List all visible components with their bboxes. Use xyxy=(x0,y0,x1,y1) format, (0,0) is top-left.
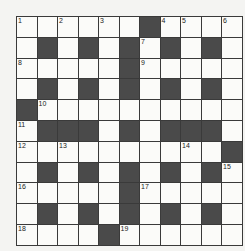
crossword-cell[interactable]: 11 xyxy=(17,121,37,141)
crossword-cell[interactable] xyxy=(17,163,37,183)
crossword-cell[interactable] xyxy=(161,225,181,245)
crossword-cell[interactable] xyxy=(140,225,160,245)
crossword-cell[interactable] xyxy=(58,183,78,203)
crossword-cell[interactable] xyxy=(58,163,78,183)
crossword-cell[interactable] xyxy=(202,225,222,245)
crossword-cell[interactable] xyxy=(181,163,201,183)
crossword-cell[interactable] xyxy=(58,225,78,245)
black-cell xyxy=(202,163,222,183)
crossword-cell[interactable] xyxy=(222,38,242,58)
black-cell xyxy=(140,17,160,37)
crossword-cell[interactable] xyxy=(222,100,242,120)
crossword-cell[interactable] xyxy=(38,59,58,79)
crossword-cell[interactable]: 9 xyxy=(140,59,160,79)
black-cell xyxy=(161,79,181,99)
crossword-cell[interactable]: 7 xyxy=(140,38,160,58)
crossword-cell[interactable] xyxy=(202,59,222,79)
crossword-cell[interactable] xyxy=(99,204,119,224)
crossword-cell[interactable] xyxy=(79,100,99,120)
crossword-cell[interactable]: 12 xyxy=(17,142,37,162)
black-cell xyxy=(202,121,222,141)
crossword-cell[interactable] xyxy=(202,17,222,37)
crossword-cell[interactable] xyxy=(99,59,119,79)
crossword-cell[interactable] xyxy=(79,225,99,245)
crossword-cell[interactable]: 1 xyxy=(17,17,37,37)
crossword-cell[interactable] xyxy=(222,59,242,79)
crossword-cell[interactable] xyxy=(99,79,119,99)
crossword-cell[interactable]: 14 xyxy=(181,142,201,162)
crossword-cell[interactable] xyxy=(79,142,99,162)
crossword-cell[interactable] xyxy=(120,142,140,162)
crossword-cell[interactable]: 2 xyxy=(58,17,78,37)
crossword-cell[interactable] xyxy=(202,100,222,120)
crossword-cell[interactable] xyxy=(58,38,78,58)
crossword-cell[interactable] xyxy=(222,79,242,99)
clue-number: 15 xyxy=(223,163,231,171)
crossword-cell[interactable] xyxy=(181,79,201,99)
crossword-cell[interactable] xyxy=(58,59,78,79)
crossword-cell[interactable] xyxy=(38,183,58,203)
crossword-cell[interactable] xyxy=(202,183,222,203)
crossword-cell[interactable] xyxy=(181,225,201,245)
crossword-cell[interactable] xyxy=(17,79,37,99)
crossword-cell[interactable]: 4 xyxy=(161,17,181,37)
crossword-cell[interactable] xyxy=(99,163,119,183)
crossword-cell[interactable]: 16 xyxy=(17,183,37,203)
crossword-cell[interactable] xyxy=(161,142,181,162)
crossword-cell[interactable] xyxy=(222,225,242,245)
crossword-cell[interactable] xyxy=(17,204,37,224)
crossword-cell[interactable] xyxy=(181,38,201,58)
crossword-cell[interactable] xyxy=(38,225,58,245)
crossword-cell[interactable] xyxy=(99,183,119,203)
crossword-cell[interactable] xyxy=(120,17,140,37)
crossword-cell[interactable] xyxy=(58,100,78,120)
clue-number: 18 xyxy=(18,225,26,233)
crossword-cell[interactable] xyxy=(120,100,140,120)
crossword-cell[interactable] xyxy=(58,79,78,99)
crossword-cell[interactable] xyxy=(222,121,242,141)
crossword-cell[interactable] xyxy=(222,183,242,203)
crossword-cell[interactable] xyxy=(140,204,160,224)
crossword-cell[interactable]: 10 xyxy=(38,100,58,120)
black-cell xyxy=(79,79,99,99)
crossword-cell[interactable] xyxy=(140,163,160,183)
crossword-cell[interactable]: 15 xyxy=(222,163,242,183)
crossword-cell[interactable]: 19 xyxy=(120,225,140,245)
black-cell xyxy=(181,121,201,141)
crossword-cell[interactable] xyxy=(140,79,160,99)
crossword-cell[interactable] xyxy=(79,59,99,79)
black-cell xyxy=(120,183,140,203)
clue-number: 4 xyxy=(162,17,166,25)
crossword-cell[interactable] xyxy=(222,204,242,224)
crossword-cell[interactable] xyxy=(79,183,99,203)
crossword-cell[interactable] xyxy=(161,59,181,79)
crossword-cell[interactable] xyxy=(38,142,58,162)
crossword-cell[interactable] xyxy=(17,38,37,58)
crossword-cell[interactable] xyxy=(79,17,99,37)
crossword-cell[interactable]: 8 xyxy=(17,59,37,79)
crossword-cell[interactable]: 6 xyxy=(222,17,242,37)
crossword-cell[interactable] xyxy=(99,142,119,162)
crossword-cell[interactable]: 17 xyxy=(140,183,160,203)
crossword-cell[interactable]: 13 xyxy=(58,142,78,162)
crossword-cell[interactable] xyxy=(181,204,201,224)
crossword-cell[interactable] xyxy=(38,17,58,37)
crossword-cell[interactable] xyxy=(161,100,181,120)
crossword-cell[interactable] xyxy=(99,121,119,141)
crossword-cell[interactable] xyxy=(99,100,119,120)
crossword-cell[interactable] xyxy=(181,100,201,120)
crossword-cell[interactable]: 18 xyxy=(17,225,37,245)
clue-number: 12 xyxy=(18,142,26,150)
crossword-cell[interactable] xyxy=(181,59,201,79)
crossword-cell[interactable]: 3 xyxy=(99,17,119,37)
crossword-cell[interactable] xyxy=(58,204,78,224)
crossword-cell[interactable] xyxy=(202,142,222,162)
crossword-cell[interactable] xyxy=(181,183,201,203)
crossword-cell[interactable] xyxy=(140,121,160,141)
crossword-cell[interactable] xyxy=(99,38,119,58)
crossword-cell[interactable] xyxy=(140,142,160,162)
crossword-cell[interactable] xyxy=(161,183,181,203)
crossword-cell[interactable]: 5 xyxy=(181,17,201,37)
crossword-cell[interactable] xyxy=(140,100,160,120)
clue-number: 17 xyxy=(141,183,149,191)
